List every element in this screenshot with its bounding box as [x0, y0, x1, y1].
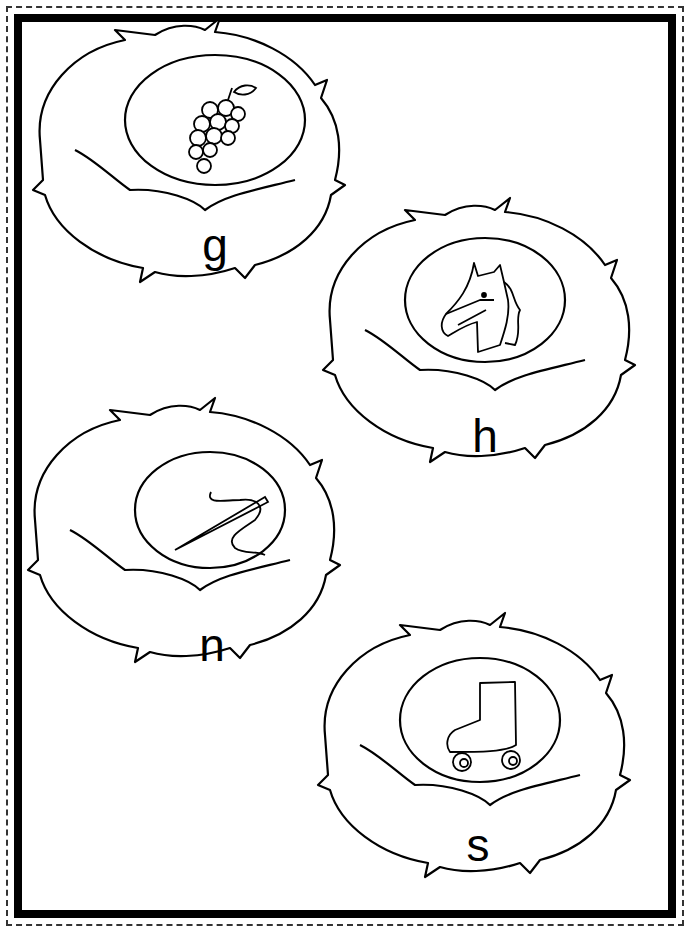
- nest-letter-s: s: [467, 822, 490, 868]
- nest-n: [28, 398, 340, 662]
- nest-illustrations: [0, 0, 690, 932]
- nest-letter-n: n: [199, 622, 225, 668]
- nest-letter-h: h: [472, 413, 498, 459]
- nest-letter-g: g: [202, 222, 228, 268]
